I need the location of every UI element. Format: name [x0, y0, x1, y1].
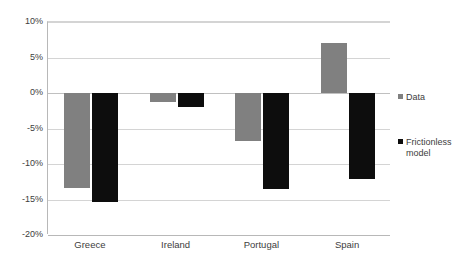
bar	[178, 93, 204, 107]
y-axis-tick-label: -20%	[0, 230, 43, 239]
bar	[349, 93, 375, 179]
y-axis-tick-label: -10%	[0, 159, 43, 168]
x-axis-category-label: Spain	[335, 240, 359, 250]
gridline	[48, 235, 390, 236]
bar	[92, 93, 118, 202]
plot-inner	[48, 22, 390, 234]
legend-label: Frictionless model	[406, 137, 469, 159]
x-axis-category-label: Greece	[74, 240, 105, 250]
bar	[263, 93, 289, 189]
bar-group	[321, 22, 375, 234]
y-axis-tick-label: -5%	[0, 123, 43, 132]
x-axis-category-label: Portugal	[244, 240, 279, 250]
legend-entry[interactable]: Data	[398, 92, 425, 103]
y-axis-tick-label: 5%	[0, 52, 43, 61]
bar	[235, 93, 261, 141]
plot-area	[47, 21, 390, 234]
bar-group	[235, 22, 289, 234]
bar	[64, 93, 90, 188]
y-axis-tick-label: 10%	[0, 17, 43, 26]
y-axis-tick-label: 0%	[0, 88, 43, 97]
legend-label: Data	[406, 92, 425, 103]
bar	[321, 43, 347, 93]
x-axis-category-label: Ireland	[161, 240, 190, 250]
legend-swatch-icon	[398, 94, 403, 99]
bar	[150, 93, 176, 102]
y-axis-tick-label: -15%	[0, 194, 43, 203]
legend-entry[interactable]: Frictionless model	[398, 137, 469, 159]
legend-swatch-icon	[398, 139, 403, 144]
bar-group	[64, 22, 118, 234]
bar-chart: 10%5%0%-5%-10%-15%-20% GreeceIrelandPort…	[0, 0, 469, 272]
bar-group	[150, 22, 204, 234]
